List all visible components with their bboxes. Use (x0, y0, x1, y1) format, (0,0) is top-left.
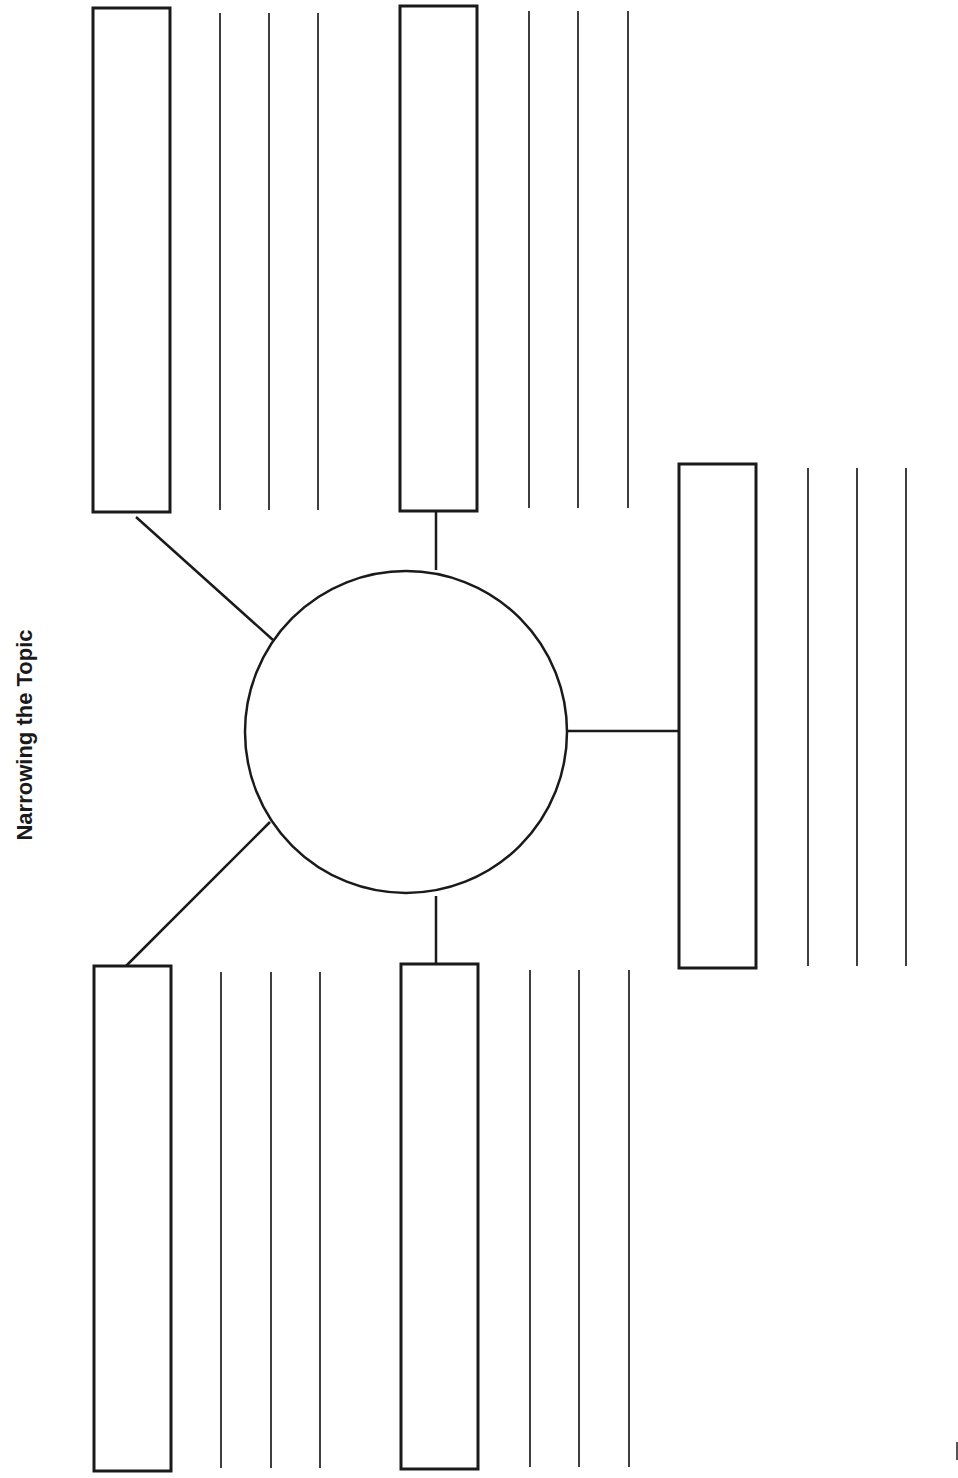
subtopic-box-1[interactable] (93, 8, 170, 512)
page-title: Narrowing the Topic (12, 629, 37, 840)
subtopic-group-5 (401, 964, 629, 1469)
subtopic-box-2[interactable] (400, 6, 477, 511)
narrowing-topic-diagram: Narrowing the Topic (0, 0, 958, 1478)
subtopic-group-2 (400, 6, 628, 511)
subtopic-group-3 (679, 464, 906, 968)
central-topic-circle[interactable] (245, 571, 567, 893)
connector-subtopic-1 (136, 517, 273, 640)
subtopic-box-4[interactable] (94, 966, 171, 1471)
subtopic-box-5[interactable] (401, 964, 478, 1469)
connector-subtopic-4 (126, 822, 270, 966)
subtopic-box-3[interactable] (679, 464, 756, 968)
subtopic-group-1 (93, 8, 318, 512)
subtopic-group-4 (94, 966, 320, 1471)
